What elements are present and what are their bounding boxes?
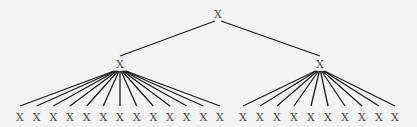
leaf-node: X <box>116 111 124 124</box>
child-to-leaf-edge <box>124 71 187 106</box>
leaf-node: X <box>183 111 191 124</box>
child-to-leaf-edge <box>324 71 379 106</box>
root-node: X <box>214 8 222 21</box>
root-to-child-edge <box>120 21 215 56</box>
tree-diagram: XXXXXXXXXXXXXXXXXXXXXXXXXX <box>0 0 417 127</box>
child-node: X <box>116 58 124 71</box>
child-to-leaf-edge <box>20 71 114 106</box>
child-to-leaf-edge <box>325 71 396 106</box>
child-to-leaf-edge <box>323 71 362 106</box>
leaf-node: X <box>133 111 141 124</box>
leaf-node: X <box>66 111 74 124</box>
leaf-node: X <box>239 111 247 124</box>
child-to-leaf-edge <box>126 71 220 106</box>
leaf-node: X <box>16 111 24 124</box>
leaf-node: X <box>83 111 91 124</box>
leaf-node: X <box>33 111 41 124</box>
leaf-node: X <box>273 111 281 124</box>
leaf-node: X <box>307 111 315 124</box>
leaf-node: X <box>49 111 57 124</box>
leaf-node: X <box>256 111 264 124</box>
root-to-child-edge <box>221 21 320 56</box>
leaf-node: X <box>290 111 298 124</box>
leaf-node: X <box>358 111 366 124</box>
tree-node-labels: XXXXXXXXXXXXXXXXXXXXXXXXXX <box>16 8 399 124</box>
child-to-leaf-edge <box>37 71 115 106</box>
child-to-leaf-edge <box>260 71 316 106</box>
child-to-leaf-edge <box>320 71 328 106</box>
leaf-node: X <box>341 111 349 124</box>
leaf-node: X <box>375 111 383 124</box>
tree-edges <box>20 21 395 106</box>
leaf-node: X <box>216 111 224 124</box>
leaf-node: X <box>99 111 107 124</box>
child-node: X <box>316 58 324 71</box>
leaf-node: X <box>166 111 174 124</box>
leaf-node: X <box>149 111 157 124</box>
child-to-leaf-edge <box>243 71 315 106</box>
leaf-node: X <box>199 111 207 124</box>
child-to-leaf-edge <box>125 71 203 106</box>
leaf-node: X <box>391 111 399 124</box>
leaf-node: X <box>324 111 332 124</box>
child-to-leaf-edge <box>53 71 116 106</box>
